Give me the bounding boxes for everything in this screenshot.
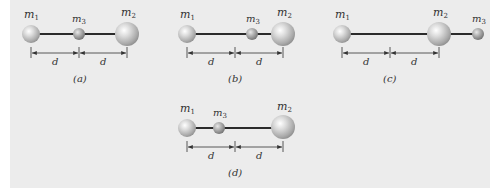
mass-m2-label: m2	[121, 6, 136, 20]
mass-m1-sphere	[333, 25, 351, 43]
panel-b: m1 m3 m2 d d (b)	[178, 6, 295, 84]
panel-a: m1 m3 m2 d d (a)	[22, 6, 139, 84]
mass-m3-sphere	[213, 122, 225, 134]
mass-m1-label: m1	[24, 8, 39, 22]
mass-m2-sphere	[271, 22, 295, 46]
distance-label-right: d	[100, 56, 106, 67]
mass-m1-sphere	[178, 25, 196, 43]
mass-m1-sphere	[178, 119, 196, 137]
mass-m3-label: m3	[246, 13, 260, 26]
panel-d: m1 m3 m2 d d (d)	[178, 100, 295, 178]
mass-m2-sphere	[115, 22, 139, 46]
mass-m3-sphere	[472, 28, 484, 40]
mass-m2-label: m2	[277, 6, 292, 20]
gravitation-diagram: m1 m3 m2 d d (a) m1 m3 m2 d d (b)	[0, 0, 503, 188]
distance-label-right: d	[256, 56, 262, 67]
dimension-lines	[342, 47, 439, 58]
mass-m1-label: m1	[180, 8, 195, 22]
distance-label-right: d	[256, 150, 262, 161]
mass-m1-sphere	[22, 25, 40, 43]
mass-m2-sphere	[427, 22, 451, 46]
distance-label-left: d	[208, 56, 214, 67]
panel-c: m1 m2 m3 d d (c)	[333, 6, 486, 84]
mass-m2-sphere	[271, 115, 295, 139]
mass-m3-label: m3	[213, 107, 227, 120]
distance-label-left: d	[208, 150, 214, 161]
distance-label-left: d	[52, 56, 58, 67]
mass-m2-label: m2	[433, 6, 448, 20]
mass-m3-sphere	[73, 28, 85, 40]
mass-m3-label: m3	[472, 13, 486, 26]
mass-m3-label: m3	[72, 13, 86, 26]
dimension-lines	[31, 47, 127, 58]
panel-caption: (c)	[383, 73, 397, 84]
dimension-lines	[187, 141, 283, 152]
dimension-lines	[187, 47, 283, 58]
mass-m2-label: m2	[277, 100, 292, 114]
mass-m3-sphere	[246, 28, 258, 40]
distance-label-left: d	[363, 56, 369, 67]
panel-caption: (a)	[73, 73, 87, 84]
mass-m1-label: m1	[180, 102, 195, 116]
mass-m1-label: m1	[335, 8, 350, 22]
distance-label-right: d	[411, 56, 417, 67]
panel-caption: (d)	[228, 167, 242, 178]
panel-caption: (b)	[228, 73, 242, 84]
